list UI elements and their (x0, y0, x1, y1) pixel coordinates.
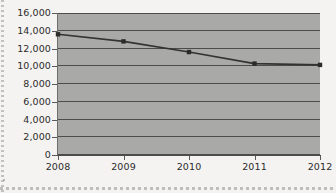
y-axis-tick-label: 2,000 (5, 132, 51, 142)
y-axis-tick-label: 4,000 (5, 115, 51, 125)
series-markers (56, 32, 322, 67)
x-axis-tick-label: 2009 (104, 162, 144, 172)
x-axis-tick-mark (255, 156, 256, 160)
y-axis-tick-label: 0 (5, 150, 51, 160)
y-axis-tick-mark (52, 49, 57, 50)
y-axis-tick-mark (52, 102, 57, 103)
x-axis-tick-mark (320, 156, 321, 160)
y-axis-tick-mark (52, 120, 57, 121)
data-point-marker (252, 61, 256, 65)
x-axis-tick-mark (189, 156, 190, 160)
y-axis-tick-mark (52, 31, 57, 32)
data-series-layer (58, 13, 320, 155)
y-axis-tick-mark (52, 137, 57, 138)
x-axis-tick-mark (124, 156, 125, 160)
x-axis-tick-label: 2011 (235, 162, 275, 172)
y-axis-tick-label: 6,000 (5, 97, 51, 107)
y-axis-tick-mark (52, 84, 57, 85)
y-axis-tick-mark (52, 155, 57, 156)
x-axis-tick-label: 2008 (38, 162, 78, 172)
line-chart-figure: 02,0004,0006,0008,00010,00012,00014,0001… (0, 0, 336, 193)
y-axis-tick-mark (52, 66, 57, 67)
y-axis-tick-label: 12,000 (5, 44, 51, 54)
y-axis-tick-label: 14,000 (5, 26, 51, 36)
series-line (58, 34, 320, 65)
data-point-marker (318, 63, 322, 67)
y-axis-tick-mark (52, 13, 57, 14)
data-point-marker (121, 39, 125, 43)
y-axis-tick-label: 8,000 (5, 79, 51, 89)
data-point-marker (56, 32, 60, 36)
y-axis-tick-label: 10,000 (5, 61, 51, 71)
data-point-marker (187, 50, 191, 54)
x-axis-tick-mark (58, 156, 59, 160)
y-axis-tick-label: 16,000 (5, 8, 51, 18)
x-axis-tick-label: 2012 (300, 162, 336, 172)
x-axis-tick-label: 2010 (169, 162, 209, 172)
